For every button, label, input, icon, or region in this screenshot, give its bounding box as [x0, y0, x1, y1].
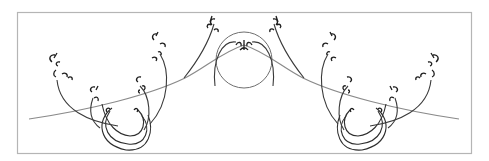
right-stem-mid	[388, 98, 397, 128]
center-stem-left	[214, 42, 236, 86]
figure-frame	[18, 13, 472, 154]
right-loop-2	[341, 111, 382, 144]
right-curl-2	[390, 86, 398, 101]
right-curl-1	[416, 53, 438, 80]
left-curl-2	[91, 86, 99, 101]
center-curl-top	[236, 40, 252, 50]
right-curl-4	[323, 32, 336, 61]
center-stem-right	[252, 42, 274, 86]
left-curl-4	[152, 32, 165, 61]
left-stem-mid	[91, 98, 100, 128]
right-spiral-group	[321, 32, 438, 150]
spiral-curve-diagram	[0, 0, 489, 161]
left-spiral-group	[50, 32, 167, 150]
left-loop-2	[106, 111, 147, 144]
left-curl-1	[50, 53, 72, 80]
main-curve	[29, 45, 459, 119]
center-branches	[184, 16, 304, 86]
